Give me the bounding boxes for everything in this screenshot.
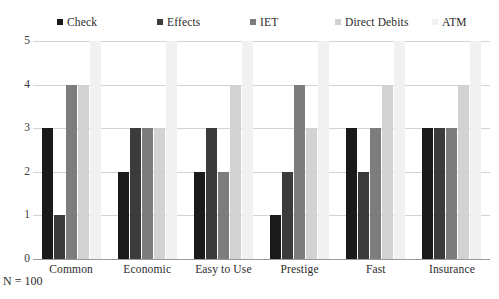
x-axis-labels: CommonEconomicEasy to UsePrestigeFastIns… [33, 261, 490, 279]
bar[interactable] [306, 128, 317, 259]
legend-item-iet[interactable]: IET [250, 15, 278, 29]
bar-chart: CheckEffectsIETDirect DebitsATM 012345 C… [0, 0, 499, 299]
bar-group [109, 41, 185, 259]
bar-group [185, 41, 261, 259]
y-axis-tick-label: 4 [4, 79, 30, 91]
legend-item-atm[interactable]: ATM [432, 15, 467, 29]
bar[interactable] [346, 128, 357, 259]
bar[interactable] [422, 128, 433, 259]
legend-label: IET [260, 15, 278, 29]
legend-swatch-icon [335, 19, 341, 25]
bar-group [414, 41, 490, 259]
bar[interactable] [370, 128, 381, 259]
bar[interactable] [54, 215, 65, 259]
cut-off-title [40, 0, 440, 5]
bar[interactable] [458, 85, 469, 259]
bar[interactable] [394, 41, 405, 259]
bar[interactable] [446, 128, 457, 259]
bar[interactable] [218, 172, 229, 259]
legend-item-effects[interactable]: Effects [157, 15, 200, 29]
axis-baseline [33, 259, 490, 260]
y-axis-labels: 012345 [0, 41, 30, 259]
plot-area [33, 41, 490, 259]
legend-item-check[interactable]: Check [57, 15, 97, 29]
bar[interactable] [318, 41, 329, 259]
legend-swatch-icon [250, 19, 256, 25]
bar[interactable] [90, 41, 101, 259]
bar[interactable] [194, 172, 205, 259]
x-axis-tick-label: Easy to Use [185, 261, 261, 279]
x-axis-tick-label: Prestige [262, 261, 338, 279]
legend-label: ATM [442, 15, 467, 29]
bar-group [338, 41, 414, 259]
legend-label: Effects [167, 15, 200, 29]
y-axis-tick-label: 1 [4, 209, 30, 221]
x-axis-tick-label: Insurance [414, 261, 490, 279]
y-axis-tick-label: 3 [4, 122, 30, 134]
legend-swatch-icon [432, 19, 438, 25]
bar[interactable] [78, 85, 89, 259]
x-axis-tick-label: Fast [338, 261, 414, 279]
legend-item-direct-debits[interactable]: Direct Debits [335, 15, 409, 29]
footnote: N = 100 [3, 274, 42, 289]
bar[interactable] [42, 128, 53, 259]
bar[interactable] [242, 41, 253, 259]
bar[interactable] [434, 128, 445, 259]
bar[interactable] [270, 215, 281, 259]
bar[interactable] [470, 41, 481, 259]
bar-group [33, 41, 109, 259]
legend-label: Direct Debits [345, 15, 409, 29]
bar-group [262, 41, 338, 259]
bar[interactable] [294, 85, 305, 259]
bar[interactable] [166, 41, 177, 259]
bar-groups [33, 41, 490, 259]
bar[interactable] [130, 128, 141, 259]
bar[interactable] [282, 172, 293, 259]
bar[interactable] [66, 85, 77, 259]
x-axis-tick-label: Common [33, 261, 109, 279]
bar[interactable] [154, 128, 165, 259]
bar[interactable] [206, 128, 217, 259]
x-axis-tick-label: Economic [109, 261, 185, 279]
y-axis-tick-label: 5 [4, 35, 30, 47]
chart-legend: CheckEffectsIETDirect DebitsATM [0, 15, 499, 31]
legend-swatch-icon [157, 19, 163, 25]
legend-swatch-icon [57, 19, 63, 25]
bar[interactable] [382, 85, 393, 259]
bar[interactable] [118, 172, 129, 259]
y-axis-tick-label: 2 [4, 166, 30, 178]
y-axis-tick-label: 0 [4, 253, 30, 265]
legend-label: Check [67, 15, 97, 29]
bar[interactable] [142, 128, 153, 259]
bar[interactable] [230, 85, 241, 259]
bar[interactable] [358, 172, 369, 259]
